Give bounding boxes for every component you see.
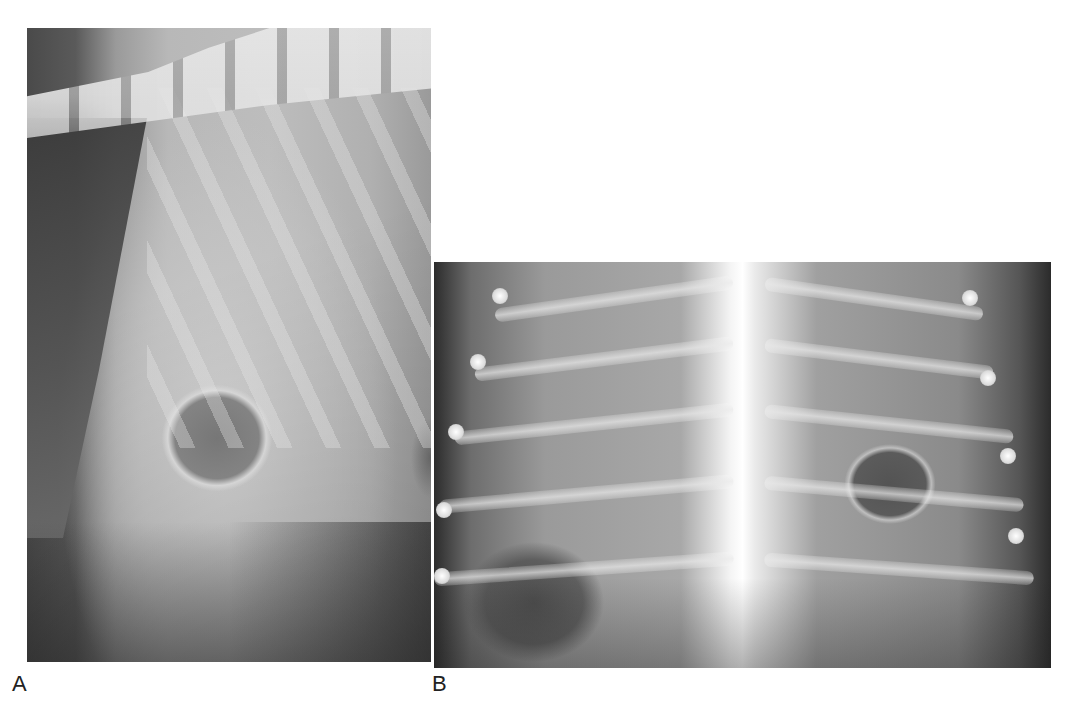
rib-end xyxy=(470,354,486,370)
rib xyxy=(439,474,734,514)
rib-end xyxy=(436,502,452,518)
rib xyxy=(764,476,1024,513)
rib xyxy=(764,404,1014,444)
rib xyxy=(494,275,734,322)
rib-end xyxy=(962,290,978,306)
lung-field-dark xyxy=(27,118,147,538)
rib-end xyxy=(1008,528,1024,544)
panel-label-b: B xyxy=(432,671,447,697)
rib-end xyxy=(448,424,464,440)
rib-end xyxy=(1000,448,1016,464)
rib-shadows xyxy=(147,88,431,448)
rib xyxy=(474,336,734,382)
rib xyxy=(764,277,984,321)
radiograph-panel-b xyxy=(434,262,1051,668)
rib xyxy=(454,402,734,445)
lower-shadow xyxy=(434,578,1051,668)
panel-label-a: A xyxy=(12,671,27,697)
rib-end xyxy=(980,370,996,386)
sternal-shadow xyxy=(27,522,431,662)
rib-end xyxy=(492,288,508,304)
radiograph-panel-a xyxy=(27,28,431,662)
rib xyxy=(764,338,994,380)
